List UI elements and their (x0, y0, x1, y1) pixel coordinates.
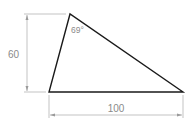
triangle-outline (49, 14, 183, 92)
height-label: 60 (8, 49, 20, 60)
base-label: 100 (108, 103, 125, 114)
triangle-diagram: 60 100 69° (0, 0, 195, 130)
angle-label: 69° (71, 25, 84, 35)
